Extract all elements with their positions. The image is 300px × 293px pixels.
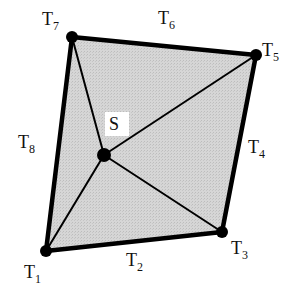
center-s-dot [97, 148, 111, 162]
edge-t6-label: T6 [158, 8, 175, 32]
vertex-t1-label: T1 [24, 262, 41, 286]
edge-t8-label: T8 [18, 132, 35, 156]
vertex-t5-label: T5 [262, 40, 279, 64]
vertex-t5-dot [250, 49, 262, 61]
center-s-label: S [109, 114, 119, 134]
edge-t2-label: T2 [126, 250, 143, 274]
vertex-t3-dot [216, 226, 228, 238]
vertex-t7-label: T7 [42, 9, 59, 33]
vertex-t1-dot [40, 245, 52, 257]
diagram-canvas: S T7 T5 T3 T1 T6 T8 T4 T2 [0, 0, 300, 293]
edge-t4-label: T4 [248, 137, 265, 161]
vertex-t7-dot [66, 31, 78, 43]
vertex-t3-label: T3 [231, 238, 248, 262]
